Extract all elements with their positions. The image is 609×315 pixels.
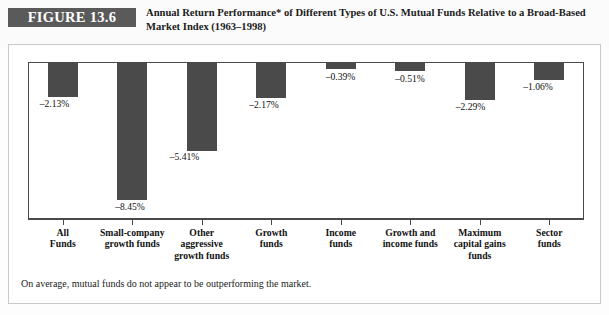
bar-value-label: –0.51% (395, 73, 425, 84)
x-axis-tick (202, 219, 203, 225)
x-axis-tick (271, 219, 272, 225)
category-label-line: Small-company (100, 227, 165, 238)
category-label-line: Growth (255, 227, 287, 238)
x-axis-tick (341, 219, 342, 225)
category-label-line: income funds (383, 238, 438, 249)
figure-page: FIGURE 13.6 Annual Return Performance* o… (0, 0, 609, 315)
bar (187, 63, 217, 151)
x-axis-category-label: Growthfunds (255, 227, 287, 250)
category-label-line: aggressive (174, 238, 229, 249)
category-label-line: Other (174, 227, 229, 238)
x-axis-tick (480, 219, 481, 225)
figure-footnote: On average, mutual funds do not appear t… (21, 278, 311, 289)
x-axis-category-label: Sectorfunds (536, 227, 562, 250)
category-label-line: growth funds (100, 238, 165, 249)
category-label-line: funds (325, 238, 356, 249)
category-label-line: Sector (536, 227, 562, 238)
bar (256, 63, 286, 98)
bar (534, 63, 564, 80)
bar-value-label: –2.29% (456, 101, 486, 112)
category-label-line: All (50, 227, 76, 238)
category-label-line: Growth and (383, 227, 438, 238)
chart-x-axis (28, 218, 584, 220)
figure-number-label: FIGURE 13.6 (28, 9, 117, 26)
bar (465, 63, 495, 100)
category-label-line: Income (325, 227, 356, 238)
x-axis-category-label: Maximumcapital gainsfunds (454, 227, 506, 261)
category-label-line: funds (536, 238, 562, 249)
category-label-line: capital gains (454, 238, 506, 249)
bar (117, 63, 147, 200)
bar-value-label: –1.06% (523, 81, 553, 92)
x-axis-category-label: Otheraggressivegrowth funds (174, 227, 229, 261)
figure-title-line-1: Annual Return Performance* of Different … (146, 6, 601, 20)
bar-value-label: –2.13% (40, 98, 70, 109)
figure-card: –2.13%–8.45%–5.41%–2.17%–0.39%–0.51%–2.2… (8, 44, 601, 304)
bar-value-label: –2.17% (249, 99, 279, 110)
x-axis-tick (410, 219, 411, 225)
bar-value-label: –0.39% (326, 71, 356, 82)
bar-value-label: –5.41% (170, 151, 200, 162)
bar (395, 63, 425, 71)
x-axis-category-label: Incomefunds (325, 227, 356, 250)
figure-number-badge: FIGURE 13.6 (8, 8, 136, 27)
category-label-line: funds (454, 250, 506, 261)
category-label-line: Funds (50, 238, 76, 249)
x-axis-category-label: AllFunds (50, 227, 76, 250)
category-label-line: Maximum (454, 227, 506, 238)
figure-title: Annual Return Performance* of Different … (146, 6, 601, 34)
category-label-line: funds (255, 238, 287, 249)
x-axis-tick (63, 219, 64, 225)
chart-plot-area (28, 62, 584, 219)
x-axis-tick (132, 219, 133, 225)
figure-title-line-2: Market Index (1963–1998) (146, 20, 601, 34)
x-axis-category-label: Growth andincome funds (383, 227, 438, 250)
x-axis-category-label: Small-companygrowth funds (100, 227, 165, 250)
category-label-line: growth funds (174, 250, 229, 261)
bar (326, 63, 356, 69)
x-axis-tick (549, 219, 550, 225)
bar (48, 63, 78, 97)
bar-value-label: –8.45% (115, 201, 145, 212)
figure-header: FIGURE 13.6 Annual Return Performance* o… (0, 0, 609, 48)
